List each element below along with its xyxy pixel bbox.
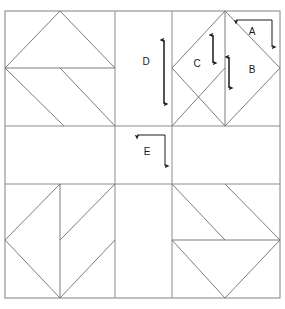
outer-frame: [5, 11, 280, 298]
dimension-label-c: C: [193, 58, 200, 69]
bottom-left-block: [5, 184, 115, 298]
dimension-label-e: E: [144, 146, 151, 157]
quilt-block-diagram: A B C D E: [0, 0, 285, 309]
dimension-marker-d: D: [142, 40, 164, 104]
dimension-label-b: B: [249, 64, 256, 75]
dimension-label-d: D: [142, 56, 149, 67]
dimension-marker-c: C: [193, 35, 213, 69]
top-right-block: [172, 11, 280, 126]
top-left-block: [5, 11, 115, 126]
dimension-marker-e: E: [137, 135, 165, 166]
dimension-label-a: A: [249, 26, 256, 37]
dimension-marker-b: B: [229, 57, 256, 88]
quilt-diagram-root: A B C D E: [0, 0, 285, 309]
dimension-marker-a: A: [236, 20, 272, 47]
block-grid-lines: [5, 11, 280, 298]
bottom-right-block: [172, 184, 280, 298]
